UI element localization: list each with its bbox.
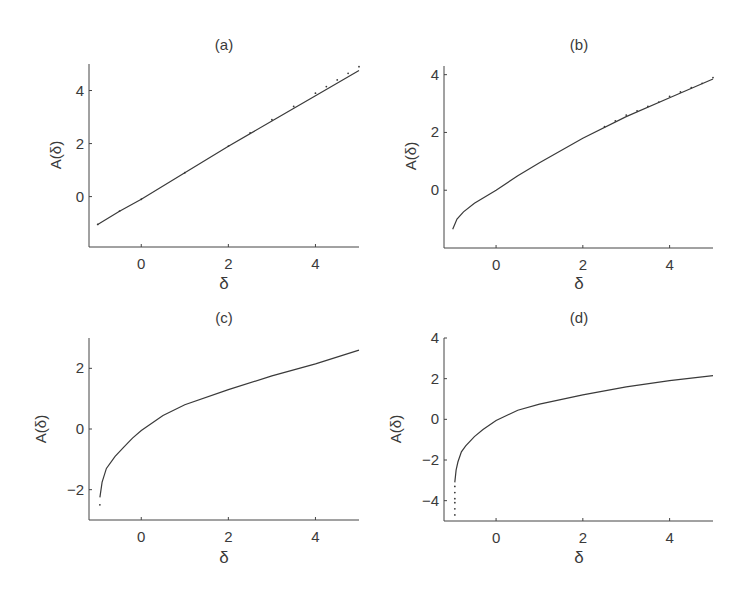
data-point — [347, 72, 349, 74]
data-point — [454, 508, 456, 510]
data-point — [712, 77, 714, 79]
y-tick-label: 2 — [76, 359, 84, 376]
y-tick-label: 2 — [431, 123, 439, 140]
data-point — [690, 87, 692, 89]
x-tick-label: 0 — [137, 528, 145, 545]
panel-title: (a) — [215, 36, 233, 53]
data-point — [701, 82, 703, 84]
y-tick-label: −2 — [422, 451, 439, 468]
data-point — [358, 66, 360, 68]
x-tick-label: 2 — [224, 255, 232, 272]
axes: 024−202 — [67, 338, 359, 545]
panel-title: (d) — [570, 309, 588, 326]
data-point — [454, 486, 456, 488]
data-point — [669, 95, 671, 97]
y-tick-label: −2 — [67, 481, 84, 498]
panel-a: (a) δ A(δ) 024024 — [47, 36, 360, 293]
data-point — [454, 514, 456, 516]
x-tick-label: 4 — [311, 255, 319, 272]
data-point — [99, 504, 101, 506]
y-axis-label: A(δ) — [402, 142, 419, 170]
y-tick-label: 0 — [76, 188, 84, 205]
figure-canvas: (a) δ A(δ) 024024 (b) δ A(δ) 024024 (c) … — [0, 0, 748, 593]
x-axis-label: δ — [574, 548, 583, 567]
panel-b: (b) δ A(δ) 024024 — [402, 36, 714, 293]
plot-area — [97, 66, 360, 226]
plot-area — [454, 376, 713, 516]
panel-title: (c) — [215, 309, 233, 326]
y-tick-label: 2 — [431, 370, 439, 387]
x-tick-label: 2 — [579, 256, 587, 273]
y-tick-label: 4 — [431, 329, 439, 346]
data-point — [604, 126, 606, 128]
y-tick-label: 4 — [76, 82, 84, 99]
data-point — [119, 210, 121, 212]
data-point — [680, 91, 682, 93]
data-point — [227, 145, 229, 147]
x-axis-label: δ — [574, 274, 583, 293]
x-axis-label: δ — [219, 548, 228, 567]
y-tick-label: −4 — [422, 492, 439, 509]
x-tick-label: 2 — [224, 528, 232, 545]
axes: 024−4−2024 — [422, 329, 713, 546]
y-axis-label: A(δ) — [387, 415, 404, 443]
solid-curve — [455, 376, 713, 483]
data-point — [614, 120, 616, 122]
x-tick-label: 4 — [665, 529, 673, 546]
plot-area — [99, 350, 359, 506]
solid-curve — [98, 71, 359, 225]
x-tick-label: 4 — [665, 256, 673, 273]
data-point — [625, 114, 627, 116]
data-point — [271, 119, 273, 121]
x-tick-label: 2 — [579, 529, 587, 546]
data-point — [184, 172, 186, 174]
data-point — [97, 224, 99, 226]
data-point — [454, 502, 456, 504]
data-point — [325, 86, 327, 88]
y-tick-label: 0 — [431, 181, 439, 198]
data-point — [336, 79, 338, 81]
data-point — [647, 106, 649, 108]
data-point — [315, 92, 317, 94]
data-point — [454, 498, 456, 500]
y-tick-label: 0 — [431, 410, 439, 427]
solid-curve — [453, 79, 713, 229]
y-tick-label: 0 — [76, 420, 84, 437]
data-point — [636, 110, 638, 112]
panel-c: (c) δ A(δ) 024−202 — [32, 309, 359, 567]
solid-curve — [100, 350, 359, 497]
data-point — [293, 106, 295, 108]
data-point — [249, 132, 251, 134]
x-tick-label: 4 — [311, 528, 319, 545]
x-axis-label: δ — [219, 274, 228, 293]
x-tick-label: 0 — [492, 529, 500, 546]
y-tick-label: 2 — [76, 135, 84, 152]
x-tick-label: 0 — [137, 255, 145, 272]
data-point — [658, 101, 660, 103]
figure: (a) δ A(δ) 024024 (b) δ A(δ) 024024 (c) … — [0, 0, 748, 593]
panel-title: (b) — [570, 36, 588, 53]
y-tick-label: 4 — [431, 66, 439, 83]
data-point — [454, 492, 456, 494]
data-point — [140, 198, 142, 200]
y-axis-label: A(δ) — [47, 141, 64, 169]
plot-area — [453, 77, 714, 230]
panel-d: (d) δ A(δ) 024−4−2024 — [387, 309, 713, 567]
y-axis-label: A(δ) — [32, 415, 49, 443]
x-tick-label: 0 — [492, 256, 500, 273]
